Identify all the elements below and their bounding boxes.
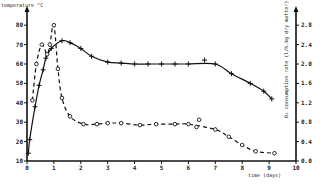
x-tick-label: 2 xyxy=(79,164,83,171)
y-left-tick-label: 10 xyxy=(16,157,24,164)
circle-marker-icon xyxy=(106,121,110,125)
plus-marker-icon xyxy=(213,62,218,67)
circle-marker-icon xyxy=(227,135,231,139)
y-left-tick-label: 80 xyxy=(16,21,24,28)
plus-marker-icon xyxy=(37,83,42,88)
x-tick-label: 0 xyxy=(25,164,29,171)
y-right-tick-label: 2.8 xyxy=(301,21,312,28)
circle-marker-icon xyxy=(56,67,60,71)
circle-marker-icon xyxy=(173,122,177,126)
plus-marker-icon xyxy=(27,137,32,142)
temperature-line xyxy=(28,40,271,153)
x-tick-label: 7 xyxy=(213,164,217,171)
plus-marker-icon xyxy=(146,62,151,67)
y-right-tick-label: 2.0 xyxy=(301,60,312,67)
series-layer xyxy=(26,23,276,155)
circle-marker-icon xyxy=(45,53,49,57)
circle-marker-icon xyxy=(48,43,52,47)
y-right-tick-label: 0.4 xyxy=(301,138,312,145)
plus-marker-icon xyxy=(159,62,164,67)
plus-marker-icon xyxy=(68,40,73,45)
y-right-tick-label: 1.2 xyxy=(301,99,312,106)
circle-marker-icon xyxy=(197,118,201,122)
y-right-tick-label: 1.6 xyxy=(301,79,312,86)
x-tick-label: 8 xyxy=(240,164,244,171)
plus-marker-icon xyxy=(202,58,207,63)
plus-marker-icon xyxy=(89,54,94,59)
x-tick-label: 10 xyxy=(292,164,300,171)
circle-marker-icon xyxy=(273,151,277,155)
circle-marker-icon xyxy=(95,122,99,126)
chart-canvas: 01234567891010203040506070800.00.40.81.2… xyxy=(0,0,324,184)
y-left-tick-label: 70 xyxy=(16,41,24,48)
y-left-tick-label: 50 xyxy=(16,79,24,86)
x-axis-title: time (days) xyxy=(248,172,281,179)
x-tick-label: 4 xyxy=(133,164,137,171)
plus-marker-icon xyxy=(33,104,38,109)
y-left-tick-label: 60 xyxy=(16,60,24,67)
x-tick-label: 3 xyxy=(106,164,110,171)
y-left-axis-title: temperature °C xyxy=(1,2,43,9)
plus-marker-icon xyxy=(132,62,137,67)
y-right-tick-label: 0.8 xyxy=(301,118,312,125)
y-left-tick-label: 30 xyxy=(16,118,24,125)
y-right-axis-title: O₂ consumption rate (l/h.kg dry matter) xyxy=(283,1,290,118)
circle-marker-icon xyxy=(187,122,191,126)
plus-marker-icon xyxy=(248,81,253,86)
circle-marker-icon xyxy=(254,150,258,154)
circle-marker-icon xyxy=(154,122,158,126)
o2-rate-line xyxy=(32,25,274,154)
circle-marker-icon xyxy=(31,99,35,103)
circle-marker-icon xyxy=(35,62,39,66)
x-tick-label: 1 xyxy=(52,164,56,171)
plus-marker-icon xyxy=(59,38,64,43)
x-tick-label: 5 xyxy=(160,164,164,171)
circle-marker-icon xyxy=(60,96,64,100)
y-right-tick-label: 2.4 xyxy=(301,41,312,48)
x-tick-label: 9 xyxy=(267,164,271,171)
temperature-o2-chart: 01234567891010203040506070800.00.40.81.2… xyxy=(0,0,324,184)
plus-marker-icon xyxy=(186,62,191,67)
plus-marker-icon xyxy=(41,67,46,72)
circle-marker-icon xyxy=(119,121,123,125)
x-tick-label: 6 xyxy=(187,164,191,171)
circle-marker-icon xyxy=(52,23,56,27)
circle-marker-icon xyxy=(40,43,44,47)
circle-marker-icon xyxy=(214,128,218,132)
circle-marker-icon xyxy=(240,143,244,147)
y-left-tick-label: 20 xyxy=(16,138,24,145)
circle-marker-icon xyxy=(195,125,199,129)
circle-marker-icon xyxy=(68,115,72,119)
y-left-tick-label: 40 xyxy=(16,99,24,106)
circle-marker-icon xyxy=(82,122,86,126)
y-right-arrow-icon xyxy=(294,6,299,12)
plus-marker-icon xyxy=(119,61,124,66)
plus-marker-icon xyxy=(105,60,110,65)
circle-marker-icon xyxy=(138,123,142,127)
y-right-tick-label: 0.0 xyxy=(301,157,312,164)
plus-marker-icon xyxy=(172,62,177,67)
